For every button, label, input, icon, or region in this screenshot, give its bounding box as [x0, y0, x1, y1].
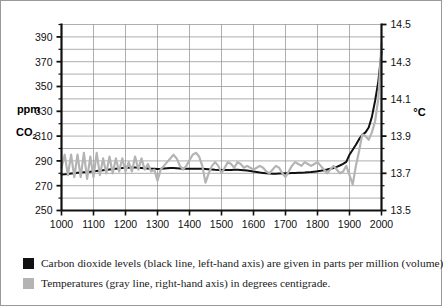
chart-legend: Carbon dioxide levels (black line, left-… — [1, 250, 443, 306]
ytick-label-right: 14.5 — [391, 18, 412, 30]
chart-plot-area: 25027029031033035037039013.513.713.914.1… — [1, 1, 443, 249]
ytick-label-right: 14.1 — [391, 93, 412, 105]
xtick-label: 1000 — [50, 218, 74, 230]
xtick-label: 1600 — [242, 218, 266, 230]
legend-label-co2: Carbon dioxide levels (black line, left-… — [41, 256, 443, 270]
ytick-label-left: 390 — [35, 31, 53, 43]
ytick-label-left: 310 — [35, 130, 53, 142]
ytick-label-left: 370 — [35, 56, 53, 68]
legend-item-temperature: Temperatures (gray line, right-hand axis… — [23, 276, 443, 293]
xtick-label: 2000 — [370, 218, 394, 230]
xtick-label: 1900 — [338, 218, 362, 230]
ytick-label-left: 350 — [35, 80, 53, 92]
xtick-label: 1500 — [210, 218, 234, 230]
xtick-label: 1700 — [274, 218, 298, 230]
xtick-label: 1100 — [82, 218, 105, 230]
ytick-label-right: 14.3 — [391, 56, 412, 68]
xtick-label: 1800 — [306, 218, 330, 230]
axis-title-celsius: °C — [413, 106, 425, 118]
xtick-label: 1400 — [178, 218, 202, 230]
legend-item-co2: Carbon dioxide levels (black line, left-… — [23, 256, 443, 273]
ytick-label-left: 250 — [35, 204, 53, 216]
legend-swatch-black-icon — [23, 258, 34, 269]
ytick-label-left: 290 — [35, 155, 53, 167]
ytick-label-right: 13.7 — [391, 167, 412, 179]
chart-svg: 25027029031033035037039013.513.713.914.1… — [1, 1, 443, 249]
xtick-label: 1200 — [114, 218, 138, 230]
gridlines — [62, 25, 382, 211]
xtick-label: 1300 — [146, 218, 170, 230]
ytick-label-right: 13.9 — [391, 130, 412, 142]
axis-title-co2-subscript: 2 — [33, 132, 38, 141]
ytick-label-left: 270 — [35, 180, 53, 192]
legend-swatch-gray-icon — [23, 278, 34, 289]
legend-label-temperature: Temperatures (gray line, right-hand axis… — [41, 276, 330, 290]
ytick-label-right: 13.5 — [391, 204, 412, 216]
axis-title-ppm: ppm — [17, 103, 40, 115]
axis-title-co2: CO2 — [16, 126, 38, 141]
